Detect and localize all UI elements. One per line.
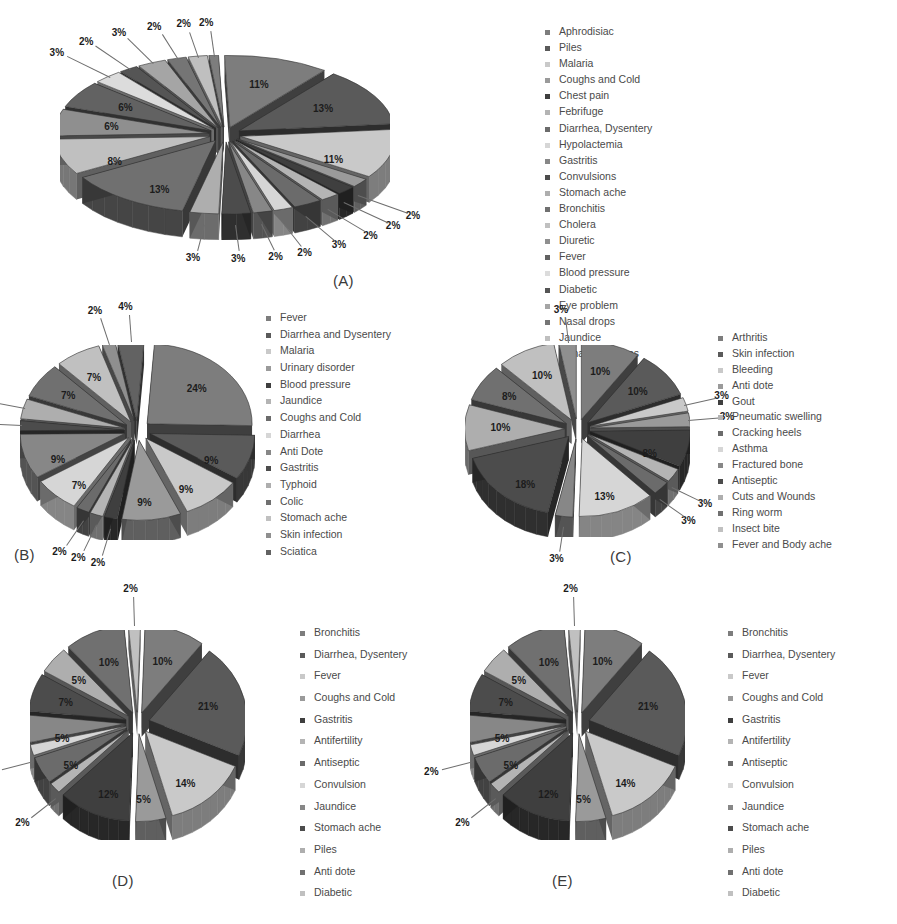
legend-item[interactable]: Convulsion xyxy=(728,779,835,790)
legend-item[interactable]: Bleeding xyxy=(718,364,832,375)
legend-item[interactable]: Fractured bone xyxy=(718,459,832,470)
legend-item[interactable]: Antiseptic xyxy=(718,475,832,486)
legend-item[interactable]: Anti dote xyxy=(728,866,835,877)
legend-item[interactable]: Diarrhea, Dysentery xyxy=(545,123,652,134)
legend-item-label: Cracking heels xyxy=(732,427,801,438)
legend-item-label: Malaria xyxy=(559,58,593,69)
legend-item[interactable]: Bronchitis xyxy=(545,203,652,214)
legend-item[interactable]: Stomach ache xyxy=(266,512,391,523)
legend-item[interactable]: Fever and Body ache xyxy=(718,539,832,550)
legend-item[interactable]: Anti Dote xyxy=(266,446,391,457)
legend-item[interactable]: Anti dote xyxy=(300,866,407,877)
legend-item[interactable]: Blood pressure xyxy=(266,379,391,390)
legend-item[interactable]: Piles xyxy=(545,42,652,53)
legend-swatch-icon xyxy=(728,718,733,723)
legend-item[interactable]: Pneumatic swelling xyxy=(718,411,832,422)
legend-item-label: Skin infection xyxy=(732,348,794,359)
legend-item[interactable]: Fever xyxy=(300,670,407,681)
legend-item[interactable]: Gastritis xyxy=(300,714,407,725)
legend-item[interactable]: Jaundice xyxy=(728,801,835,812)
legend-item[interactable]: Jaundice xyxy=(266,395,391,406)
legend-item[interactable]: Fever xyxy=(266,312,391,323)
legend-item[interactable]: Fever xyxy=(545,251,652,262)
legend-item[interactable]: Ring worm xyxy=(718,507,832,518)
legend-item[interactable]: Malaria xyxy=(266,345,391,356)
legend-item[interactable]: Malaria xyxy=(545,58,652,69)
legend-item[interactable]: Cholera xyxy=(545,219,652,230)
legend-item[interactable]: Insect bite xyxy=(718,523,832,534)
legend-item[interactable]: Typhoid xyxy=(266,479,391,490)
pie-percent-label: 5% xyxy=(72,675,86,686)
pie-percent-label: 3% xyxy=(554,304,568,315)
pie-percent-label: 2% xyxy=(177,18,191,29)
legend-item[interactable]: Colic xyxy=(266,496,391,507)
legend-item[interactable]: Arthritis xyxy=(718,332,832,343)
pie-percent-label: 7% xyxy=(72,480,86,491)
legend-item[interactable]: Bronchitis xyxy=(300,627,407,638)
legend-item[interactable]: Fever xyxy=(728,670,835,681)
legend-item[interactable]: Chest pain xyxy=(545,90,652,101)
legend-item[interactable]: Antiseptic xyxy=(728,757,835,768)
legend-item[interactable]: Stomach ache xyxy=(300,822,407,833)
pie-percent-label: 10% xyxy=(592,656,612,667)
legend-item[interactable]: Bronchitis xyxy=(728,627,835,638)
pie-percent-label: 2% xyxy=(71,552,85,563)
legend-item[interactable]: Jaundice xyxy=(300,801,407,812)
legend-item-label: Piles xyxy=(314,844,337,855)
legend-item[interactable]: Skin infection xyxy=(718,348,832,359)
legend-item[interactable]: Diarrhea xyxy=(266,429,391,440)
legend-item[interactable]: Convulsion xyxy=(300,779,407,790)
legend-item[interactable]: Gastritis xyxy=(728,714,835,725)
legend-item-label: Cuts and Wounds xyxy=(732,491,815,502)
legend-item[interactable]: Sciatica xyxy=(266,546,391,557)
legend-item[interactable]: Convulsions xyxy=(545,171,652,182)
legend-item[interactable]: Stomach ache xyxy=(728,822,835,833)
legend-item[interactable]: Febrifuge xyxy=(545,106,652,117)
legend-item[interactable]: Coughs and Cold xyxy=(545,74,652,85)
legend-item[interactable]: Anti dote xyxy=(718,380,832,391)
legend-item[interactable]: Piles xyxy=(300,844,407,855)
legend-swatch-icon xyxy=(545,110,550,115)
label-leader-line xyxy=(129,315,132,342)
legend-item[interactable]: Antifertility xyxy=(300,735,407,746)
legend-swatch-icon xyxy=(718,336,723,341)
legend-item[interactable]: Diabetic xyxy=(300,887,407,898)
legend-item[interactable]: Coughs and Cold xyxy=(300,692,407,703)
legend-item[interactable]: Coughs and Cold xyxy=(728,692,835,703)
legend-item[interactable]: Asthma xyxy=(718,443,832,454)
legend-item[interactable]: Urinary disorder xyxy=(266,362,391,373)
legend-item-label: Gastritis xyxy=(742,714,781,725)
legend-item[interactable]: Skin infection xyxy=(266,529,391,540)
legend-item[interactable]: Stomach ache xyxy=(545,187,652,198)
panel-label-b: (B) xyxy=(14,546,35,563)
legend-swatch-icon xyxy=(728,826,733,831)
legend-item[interactable]: Diabetic xyxy=(545,284,652,295)
pie-percent-label: 10% xyxy=(590,366,610,377)
legend-swatch-icon xyxy=(300,848,305,853)
legend-item[interactable]: Diabetic xyxy=(728,887,835,898)
legend-item[interactable]: Blood pressure xyxy=(545,267,652,278)
legend-item-label: Arthritis xyxy=(732,332,768,343)
legend-item[interactable]: Gastritis xyxy=(266,462,391,473)
legend-item[interactable]: Diarrhea and Dysentery xyxy=(266,329,391,340)
legend-item[interactable]: Diarrhea, Dysentery xyxy=(728,649,835,660)
legend-item[interactable]: Aphrodisiac xyxy=(545,26,652,37)
legend-swatch-icon xyxy=(545,191,550,196)
legend-c: ArthritisSkin infectionBleedingAnti dote… xyxy=(718,332,832,554)
legend-item[interactable]: Gout xyxy=(718,396,832,407)
legend-item[interactable]: Piles xyxy=(728,844,835,855)
legend-item[interactable]: Cuts and Wounds xyxy=(718,491,832,502)
legend-item[interactable]: Diuretic xyxy=(545,235,652,246)
legend-item[interactable]: Diarrhea, Dysentery xyxy=(300,649,407,660)
legend-item[interactable]: Antifertility xyxy=(728,735,835,746)
legend-item-label: Diarrhea, Dysentery xyxy=(742,649,835,660)
legend-swatch-icon xyxy=(718,463,723,468)
legend-item-label: Anti dote xyxy=(742,866,783,877)
legend-item[interactable]: Gastritis xyxy=(545,155,652,166)
legend-item[interactable]: Hypolactemia xyxy=(545,139,652,150)
legend-item[interactable]: Cracking heels xyxy=(718,427,832,438)
legend-item-label: Antiseptic xyxy=(742,757,788,768)
legend-swatch-icon xyxy=(718,511,723,516)
legend-item[interactable]: Coughs and Cold xyxy=(266,412,391,423)
legend-item[interactable]: Antiseptic xyxy=(300,757,407,768)
